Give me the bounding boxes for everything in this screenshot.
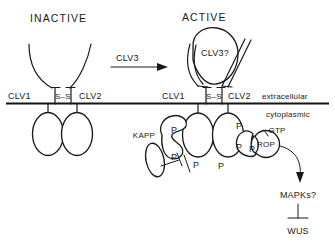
gtp-label: GTP (268, 126, 285, 135)
wus-label: WUS (287, 226, 309, 236)
inactive-title: INACTIVE (30, 12, 87, 24)
clv1-arm-foot-active (198, 86, 208, 87)
rop-to-mapk-arrowhead (296, 172, 304, 183)
disulfide-label-inactive: S–S (55, 92, 71, 101)
kinase-domain-right-inactive (62, 113, 93, 156)
clv2-label-inactive: CLV2 (79, 91, 102, 101)
clv1-label-active: CLV1 (162, 91, 185, 101)
panel-inactive: INACTIVE CLV1 S–S CLV2 (8, 12, 102, 156)
membrane-labels: extracellular cytoplasmic (262, 92, 310, 119)
clv2-label-active: CLV2 (228, 91, 251, 101)
clv3-arrow-label: CLV3 (116, 53, 139, 63)
kapp-phosphatase-group: KAPP (133, 116, 190, 179)
kinase-domain-left-inactive (33, 113, 64, 156)
clv2-ectodomain-inactive (70, 44, 91, 88)
figure-canvas: INACTIVE CLV1 S–S CLV2 CLV3 (0, 0, 335, 245)
kapp-label: KAPP (133, 131, 155, 140)
cytoplasmic-label: cytoplasmic (266, 110, 310, 119)
phospho-mark: P (193, 160, 199, 170)
phospho-mark: P (171, 125, 177, 135)
kapp-phospho-tick (184, 155, 190, 172)
phospho-mark: P (236, 142, 242, 152)
clv2-arm-foot-active (222, 86, 232, 87)
clv1-ectodomain-inactive (29, 44, 52, 88)
rop-label: ROP (257, 140, 275, 149)
kinase-domain-left-active (183, 113, 214, 157)
phospho-mark: P (249, 144, 255, 154)
phospho-mark: P (236, 121, 242, 131)
phospho-mark: P (171, 152, 177, 162)
extracellular-label: extracellular (262, 92, 308, 101)
panel-active: ACTIVE CLV3? CLV1 S–S CLV2 (162, 11, 251, 157)
clv3-arrow-head (157, 63, 168, 71)
transition-arrow-group: CLV3 (111, 53, 168, 71)
downstream-cascade: MAPKs? WUS (280, 146, 316, 236)
mapks-label: MAPKs? (280, 190, 316, 200)
phospho-mark: P (218, 161, 224, 171)
disulfide-label-active: S–S (206, 92, 222, 101)
clv3-ligand-label: CLV3? (201, 48, 229, 58)
active-title: ACTIVE (182, 11, 227, 23)
clv1-label-inactive: CLV1 (8, 91, 31, 101)
